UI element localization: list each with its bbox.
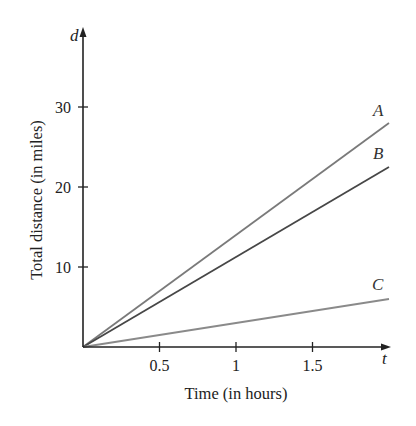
- axes: [80, 27, 392, 351]
- y-axis-title: Total distance (in miles): [27, 120, 46, 280]
- x-tick-label: 0.5: [150, 357, 170, 374]
- y-axis-variable: d: [70, 26, 79, 45]
- series-label-a: A: [372, 101, 384, 120]
- y-tick-label: 30: [55, 99, 71, 116]
- series-lines: [83, 123, 389, 347]
- y-tick-label: 10: [55, 259, 71, 276]
- x-tick-label: 1.5: [303, 357, 323, 374]
- series-label-c: C: [372, 275, 384, 294]
- axis-ticks: 0.511.5102030: [55, 99, 323, 375]
- x-tick-label: 1: [232, 357, 240, 374]
- series-line-b: [83, 167, 389, 347]
- series-line-c: [83, 299, 389, 347]
- series-line-a: [83, 123, 389, 347]
- x-axis-title: Time (in hours): [185, 384, 288, 403]
- x-axis-variable: t: [382, 349, 388, 368]
- y-tick-label: 20: [55, 179, 71, 196]
- series-label-b: B: [373, 144, 384, 163]
- y-axis-arrow-icon: [80, 27, 87, 37]
- distance-time-chart: 0.511.5102030 d t Time (in hours) Total …: [0, 0, 416, 426]
